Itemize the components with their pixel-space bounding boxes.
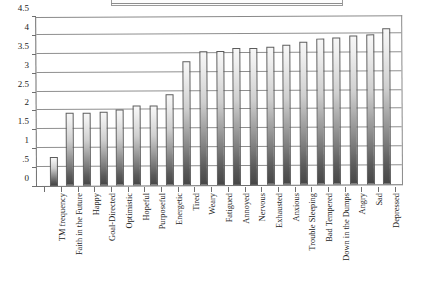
x-axis-category-label: Tired [190, 193, 198, 211]
x-axis-tick [194, 187, 195, 192]
x-axis-category-label: Weary [206, 193, 214, 215]
y-axis-tick-label: 0 [25, 174, 30, 183]
bar [83, 112, 91, 185]
x-axis-tick [378, 187, 379, 192]
x-axis-category-label: Faith in the Future [73, 193, 81, 255]
y-axis-tick-label: 3 [25, 60, 30, 69]
plot-area [35, 15, 403, 187]
bar [149, 105, 157, 185]
y-axis-tick-label: 1 [25, 136, 30, 145]
x-axis-category-label: Sad [373, 193, 381, 206]
y-axis-tick-label: 3.5 [18, 41, 29, 50]
y-axis-tick-label: 2.5 [18, 79, 29, 88]
x-axis-tick [94, 187, 95, 192]
x-axis-tick [328, 187, 329, 192]
x-axis-tick [178, 187, 179, 192]
y-axis-tick-label: 2 [25, 98, 30, 107]
bar [232, 48, 241, 185]
legend-box-cropped [111, 0, 343, 6]
bar [50, 157, 58, 186]
x-axis-tick [61, 187, 62, 192]
x-axis-category-label: Energetic [173, 193, 181, 225]
y-axis-tick-label: .5 [22, 155, 29, 164]
x-axis-tick [144, 187, 145, 192]
x-axis-category-label: Goal-Directed [106, 193, 114, 241]
x-axis-tick [111, 187, 112, 192]
x-axis-tick [278, 187, 279, 192]
x-axis-category-label: Optimistic [123, 193, 131, 228]
x-axis-category-label: Depressed [390, 193, 398, 228]
bar [383, 29, 392, 185]
bar [299, 42, 308, 185]
x-axis-category-label: Purposeful [156, 193, 164, 229]
x-axis-tick [295, 187, 296, 192]
x-axis-category-label: Hopeful [140, 193, 148, 220]
x-axis-tick [345, 187, 346, 192]
x-axis-category-label: Down in the Dumps [340, 193, 348, 261]
bar [199, 51, 208, 185]
x-axis-category-label: Nervous [256, 193, 264, 221]
gridline [36, 32, 401, 35]
bar [316, 39, 325, 185]
x-axis-labels: TM frequencyFaith in the FutureHappyGoal… [36, 193, 403, 306]
x-axis-tick [395, 187, 396, 192]
x-axis-tick [245, 187, 246, 192]
x-axis-tick [361, 187, 362, 192]
x-axis-category-label: Happy [90, 193, 98, 215]
bar [116, 109, 124, 185]
x-axis-category-label: Bad Tempered [323, 193, 331, 242]
x-axis-tick [311, 187, 312, 192]
x-axis-tick [44, 187, 45, 192]
y-axis-tick-label: 4 [25, 22, 30, 31]
y-axis: 0.511.522.533.544.5 [0, 17, 36, 187]
bar [99, 111, 107, 185]
bar [133, 106, 141, 186]
x-axis-category-label: Trouble Sleeping [306, 193, 314, 251]
x-axis-tick [261, 187, 262, 192]
bar [283, 45, 292, 185]
bar [266, 47, 275, 185]
bar [183, 61, 192, 185]
bar [366, 34, 375, 184]
x-axis-category-label: Angry [356, 193, 364, 214]
chart-figure: 0.511.522.533.544.5 TM frequencyFaith in… [0, 0, 439, 306]
bar [333, 38, 342, 185]
x-axis-tick [128, 187, 129, 192]
bar [349, 36, 358, 185]
bar [66, 113, 74, 186]
x-axis-category-label: Anxious [290, 193, 298, 221]
bar [166, 94, 174, 185]
x-axis-category-label: TM frequency [56, 193, 64, 241]
x-axis-tick [78, 187, 79, 192]
y-axis-tick-label: 4.5 [18, 4, 29, 13]
bar [216, 51, 225, 186]
x-axis-category-label: Exhausted [273, 193, 281, 228]
x-axis-tick [211, 187, 212, 192]
x-axis-category-label: Annoyed [240, 193, 248, 224]
x-axis-tick [161, 187, 162, 192]
y-axis-tick-label: 1.5 [18, 117, 29, 126]
bar [249, 47, 258, 185]
x-axis-category-label: Fatigued [223, 193, 231, 222]
x-axis-tick [228, 187, 229, 192]
